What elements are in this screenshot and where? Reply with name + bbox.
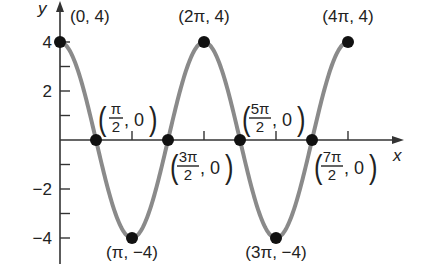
x-axis-label: x — [392, 146, 402, 165]
y-tick-label: 2 — [43, 82, 52, 101]
paren-left: ( — [98, 99, 106, 136]
point-label: (0, 4) — [70, 7, 110, 26]
paren-right: ) — [369, 147, 377, 184]
fraction-denominator: 2 — [256, 118, 264, 135]
fraction-point-label: (π2, 0) — [98, 99, 157, 136]
fraction-denominator: 2 — [112, 118, 120, 135]
fraction-point-label: (3π2, 0) — [170, 147, 233, 184]
fraction-numerator: 7π — [323, 148, 342, 165]
fraction-numerator: π — [111, 100, 121, 117]
x-axis-arrow-icon — [392, 136, 404, 144]
y-tick-label: −4 — [33, 229, 52, 248]
point-label-y: , 0 — [344, 158, 364, 178]
point-label: (π, −4) — [106, 243, 158, 262]
data-point — [306, 134, 318, 146]
fraction-point-label: (5π2, 0) — [242, 99, 305, 136]
point-label-y: , 0 — [124, 110, 144, 130]
fraction-denominator: 2 — [184, 166, 192, 183]
y-axis-label: y — [37, 0, 48, 18]
data-point — [342, 36, 354, 48]
y-tick-label: 4 — [43, 33, 52, 52]
paren-right: ) — [225, 147, 233, 184]
cosine-chart: 42−2−4 (0, 4)(π2, 0)(π, −4)(3π2, 0)(2π, … — [0, 0, 432, 264]
paren-right: ) — [297, 99, 305, 136]
paren-right: ) — [149, 99, 157, 136]
y-axis-arrow-icon — [56, 1, 64, 12]
fraction-numerator: 3π — [179, 148, 198, 165]
point-label-y: , 0 — [200, 158, 220, 178]
point-label: (4π, 4) — [322, 7, 373, 26]
y-tick-label: −2 — [33, 180, 52, 199]
fraction-numerator: 5π — [251, 100, 270, 117]
fraction-denominator: 2 — [328, 166, 336, 183]
point-labels: (0, 4)(π2, 0)(π, −4)(3π2, 0)(2π, 4)(5π2,… — [70, 7, 377, 262]
data-point — [162, 134, 174, 146]
data-point — [54, 36, 66, 48]
point-label: (3π, −4) — [245, 243, 306, 262]
fraction-point-label: (7π2, 0) — [314, 147, 377, 184]
point-label: (2π, 4) — [178, 7, 229, 26]
data-point — [198, 36, 210, 48]
point-label-y: , 0 — [272, 110, 292, 130]
